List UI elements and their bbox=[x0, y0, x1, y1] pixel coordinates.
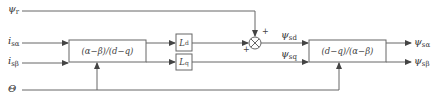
label-psi-r: ψr bbox=[8, 4, 19, 16]
label-psi-sq: ψsq bbox=[281, 49, 297, 61]
transform-ab-dq-text: (α−β)/(d−q) bbox=[69, 40, 146, 62]
lq-text: Lq bbox=[176, 54, 192, 70]
label-theta: Θ bbox=[8, 84, 16, 94]
junction-sign-top: + bbox=[262, 28, 269, 36]
label-i-s-alpha: isα bbox=[8, 36, 20, 48]
label-psi-sd: ψsd bbox=[281, 30, 297, 42]
ld-text: Ld bbox=[176, 34, 192, 51]
label-psi-s-alpha: ψsα bbox=[414, 37, 430, 49]
transform-dq-ab-text: (d−q)/(α−β) bbox=[309, 40, 386, 62]
junction-sign-left: + bbox=[243, 46, 250, 54]
psi-r-signal-line bbox=[22, 11, 255, 36]
label-psi-s-beta: ψsβ bbox=[414, 56, 429, 68]
label-i-s-beta: isβ bbox=[8, 56, 19, 68]
